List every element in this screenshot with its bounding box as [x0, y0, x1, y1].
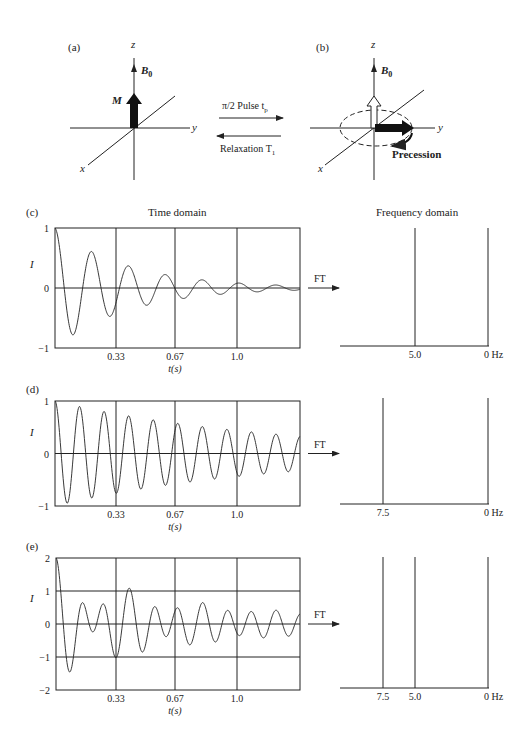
y-tick-label: −1: [38, 343, 49, 354]
magnetization-arrow-icon: [126, 93, 142, 128]
ft-label: FT: [314, 273, 326, 284]
frequency-tick-label: 7.5: [377, 507, 390, 518]
x-tick-label: 1.0: [231, 693, 244, 704]
fid-curve: [56, 558, 300, 672]
z-axis-label: z: [130, 38, 136, 50]
ft-label: FT: [314, 439, 326, 450]
panel-a-label: (a): [68, 41, 81, 54]
x-tick-label: 0.33: [107, 693, 125, 704]
y-axis-label: y: [437, 121, 443, 133]
magnetization-label: M: [111, 94, 123, 106]
y-axis-label: I: [29, 592, 35, 604]
x-axis-label: t(s): [168, 705, 182, 717]
x-tick-label: 0.33: [107, 351, 125, 362]
frequency-tick-label: 7.5: [377, 691, 390, 702]
ft-label: FT: [314, 609, 326, 620]
y-tick-label: −2: [39, 685, 50, 696]
b0-arrow-icon: [131, 64, 137, 72]
panel-b-label: (b): [316, 41, 329, 54]
x-axis-label: t(s): [168, 521, 182, 533]
x-tick-label: 0.33: [107, 509, 125, 520]
x-axis-label: x: [79, 162, 85, 174]
x-axis-label: t(s): [168, 363, 182, 375]
fid-curve: [55, 228, 300, 335]
y-tick-label: −1: [39, 652, 50, 663]
frequency-tick-label: 0 Hz: [484, 349, 504, 360]
panel-b: (b) z y x B0 Precession: [310, 38, 443, 180]
y-axis-label: I: [29, 258, 35, 270]
transition-arrows: π/2 Pulse tp Relaxation T1: [217, 100, 283, 157]
b0-label: B0: [380, 64, 392, 79]
y-tick-label: 0: [44, 449, 49, 460]
y-axis-label: y: [191, 121, 197, 133]
panel-c-label: (c): [26, 206, 39, 219]
y-tick-label: 0: [45, 619, 50, 630]
fid-curve: [55, 401, 300, 503]
relaxation-label: Relaxation T1: [220, 143, 276, 157]
b0-arrow-icon: [371, 64, 377, 72]
x-tick-label: 1.0: [231, 509, 244, 520]
panel-d-label: (d): [26, 383, 39, 396]
chart-d: (d)0.330.671.010−1It(s)FT7.50 Hz: [26, 383, 504, 533]
frequency-tick-label: 5.0: [409, 691, 422, 702]
x-axis-label: x: [317, 162, 323, 174]
nmr-figure: (a) z y x B0 M π/2 Pulse tp Relaxation T…: [0, 0, 529, 747]
b0-label: B0: [140, 64, 152, 79]
y-tick-label: 2: [45, 553, 50, 564]
y-tick-label: 0: [44, 283, 49, 294]
x-tick-label: 1.0: [231, 351, 244, 362]
y-tick-label: 1: [45, 586, 50, 597]
frequency-tick-label: 0 Hz: [484, 507, 504, 518]
frequency-tick-label: 5.0: [409, 349, 422, 360]
panel-e-label: (e): [26, 540, 39, 553]
y-axis-label: I: [29, 426, 35, 438]
x-tick-label: 0.67: [166, 693, 184, 704]
precession-label: Precession: [392, 148, 441, 160]
time-domain-title: Time domain: [148, 206, 207, 218]
y-tick-label: −1: [38, 501, 49, 512]
y-tick-label: 1: [44, 223, 49, 234]
pulse-label: π/2 Pulse tp: [222, 100, 268, 114]
x-tick-label: 0.67: [166, 509, 184, 520]
panel-a: (a) z y x B0 M: [68, 38, 197, 180]
chart-e: (e)0.330.671.0210−1−2It(s)FT7.55.00 Hz: [26, 540, 504, 717]
x-tick-label: 0.67: [166, 351, 184, 362]
chart-c: 0.330.671.010−1It(s)FT5.00 Hz: [29, 223, 504, 375]
frequency-tick-label: 0 Hz: [484, 691, 504, 702]
frequency-domain-title: Frequency domain: [376, 206, 459, 218]
y-tick-label: 1: [44, 396, 49, 407]
z-axis-label: z: [370, 38, 376, 50]
original-magnetization-icon: [367, 96, 381, 128]
